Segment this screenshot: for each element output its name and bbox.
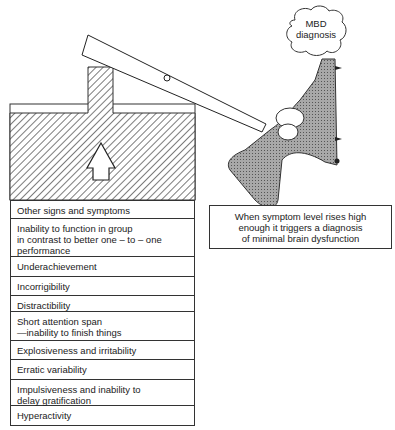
symptom-text: in contrast to better one – to – one bbox=[17, 234, 188, 245]
symptom-row: Distractibility bbox=[10, 296, 195, 312]
pivot-icon bbox=[164, 75, 170, 81]
caption-line-2: enough it triggers a diagnosis bbox=[210, 222, 391, 233]
symptom-text: Incorrigibility bbox=[17, 281, 188, 292]
symptom-row: Impulsiveness and inability to delay gra… bbox=[10, 380, 195, 406]
symptom-text: Impulsiveness and inability to bbox=[17, 384, 188, 395]
symptom-row: Other signs and symptoms bbox=[10, 200, 195, 219]
symptom-text: Explosiveness and irritability bbox=[17, 345, 188, 356]
symptom-row: Erratic variability bbox=[10, 360, 195, 380]
cloud-label: MBD diagnosis bbox=[287, 18, 345, 40]
symptom-text: Erratic variability bbox=[17, 364, 188, 375]
symptom-row: Incorrigibility bbox=[10, 277, 195, 296]
symptom-row: Underachievement bbox=[10, 257, 195, 277]
symptom-list: Other signs and symptoms Inability to fu… bbox=[10, 200, 195, 426]
caption-line-1: When symptom level rises high bbox=[210, 211, 391, 222]
symptom-row: Explosiveness and irritability bbox=[10, 341, 195, 360]
symptom-text: Inability to function in group bbox=[17, 223, 188, 234]
caption-box: When symptom level rises high enough it … bbox=[209, 205, 392, 249]
symptom-text: performance bbox=[17, 245, 188, 256]
symptom-text: Hyperactivity bbox=[17, 410, 188, 421]
cloud-line-1: MBD bbox=[287, 18, 345, 29]
caption-line-3: of minimal brain dysfunction bbox=[210, 233, 391, 244]
symptom-text: —inability to finish things bbox=[17, 327, 188, 338]
symptom-text: delay gratification bbox=[17, 395, 188, 406]
symptom-row: Inability to function in group in contra… bbox=[10, 219, 195, 257]
symptom-text: Underachievement bbox=[17, 261, 188, 272]
trigger-gun bbox=[228, 59, 342, 208]
symptom-row: Short attention span —inability to finis… bbox=[10, 312, 195, 341]
cloud-line-2: diagnosis bbox=[287, 29, 345, 40]
symptom-text: Distractibility bbox=[17, 300, 188, 311]
symptom-row: Hyperactivity bbox=[10, 406, 195, 426]
symptom-text: Short attention span bbox=[17, 316, 188, 327]
symptom-text: Other signs and symptoms bbox=[17, 205, 188, 216]
